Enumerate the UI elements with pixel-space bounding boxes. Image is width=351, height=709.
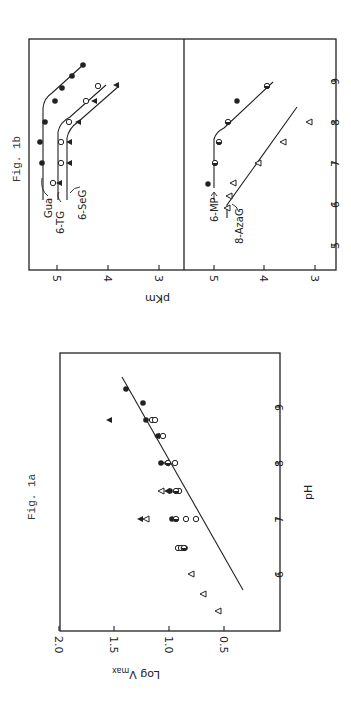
tick-label: 6	[329, 201, 342, 208]
tick-label: 9	[329, 78, 342, 85]
points-6seg	[56, 82, 119, 186]
points-gua	[123, 386, 188, 551]
figure-canvas: 5 4 3 5 4 3 pKm 5 6 7 8 9 Fig. 1b	[0, 0, 351, 709]
tick-label: 0.5	[217, 636, 230, 654]
fig-1a: 2.0 1.5 1.0 0.5 Log Vmax 6 7 8 9 pH Fig.…	[26, 353, 315, 681]
fit-line	[122, 377, 243, 590]
curve-6mp	[214, 82, 273, 188]
tick-label: 1.5	[107, 636, 120, 654]
tick-label: 6	[273, 571, 286, 578]
fig-1b-frame	[29, 39, 336, 270]
curve-6tg	[58, 85, 106, 200]
tick-label: 4	[257, 275, 270, 282]
fig-1b-pkm-ticks: 5 4 3 5 4 3	[50, 265, 321, 282]
curve-gua	[43, 65, 83, 200]
curve-8azag	[227, 107, 297, 218]
curve-6seg	[67, 86, 119, 200]
fig-1b: 5 4 3 5 4 3 pKm 5 6 7 8 9 Fig. 1b	[11, 39, 342, 305]
tick-label: 1.0	[162, 636, 175, 654]
fig-1a-xlabel: pH	[302, 485, 315, 500]
annotation-6seg: 6-SeG	[77, 190, 88, 220]
tick-label: 3	[152, 275, 165, 282]
tick-label: 5	[50, 275, 63, 282]
fig-1a-ylabel: Log Vmax	[112, 666, 160, 681]
tick-label: 5	[207, 275, 220, 282]
points-6mp	[205, 83, 269, 186]
tick-label: 8	[273, 460, 286, 467]
tick-label: 2.0	[52, 636, 65, 654]
annotation-8azag: 8-AzaG	[234, 208, 245, 244]
points-8azag	[224, 119, 312, 211]
fig-1a-title: Fig. 1a	[26, 473, 38, 520]
tick-label: 9	[273, 404, 286, 411]
fig-1a-logvmax-ticks: 2.0 1.5 1.0 0.5	[52, 626, 230, 654]
annotation-6mp: 6-MP	[209, 197, 220, 222]
tick-label: 7	[273, 516, 286, 523]
points-6mp	[165, 460, 186, 550]
tick-label: 8	[329, 119, 342, 126]
tick-label: 5	[329, 242, 342, 249]
points-gua	[37, 62, 86, 166]
tick-label: 7	[329, 160, 342, 167]
fig-1b-ylabel: pKm	[145, 292, 170, 305]
fig-1b-title: Fig. 1b	[11, 136, 23, 182]
arrow-6tg	[58, 192, 61, 202]
annotation-6tg: 6-TG	[55, 211, 66, 234]
annotation-gua: Gua	[43, 198, 54, 218]
tick-label: 4	[101, 275, 114, 282]
points-6seg	[106, 417, 186, 551]
tick-label: 3	[308, 275, 321, 282]
